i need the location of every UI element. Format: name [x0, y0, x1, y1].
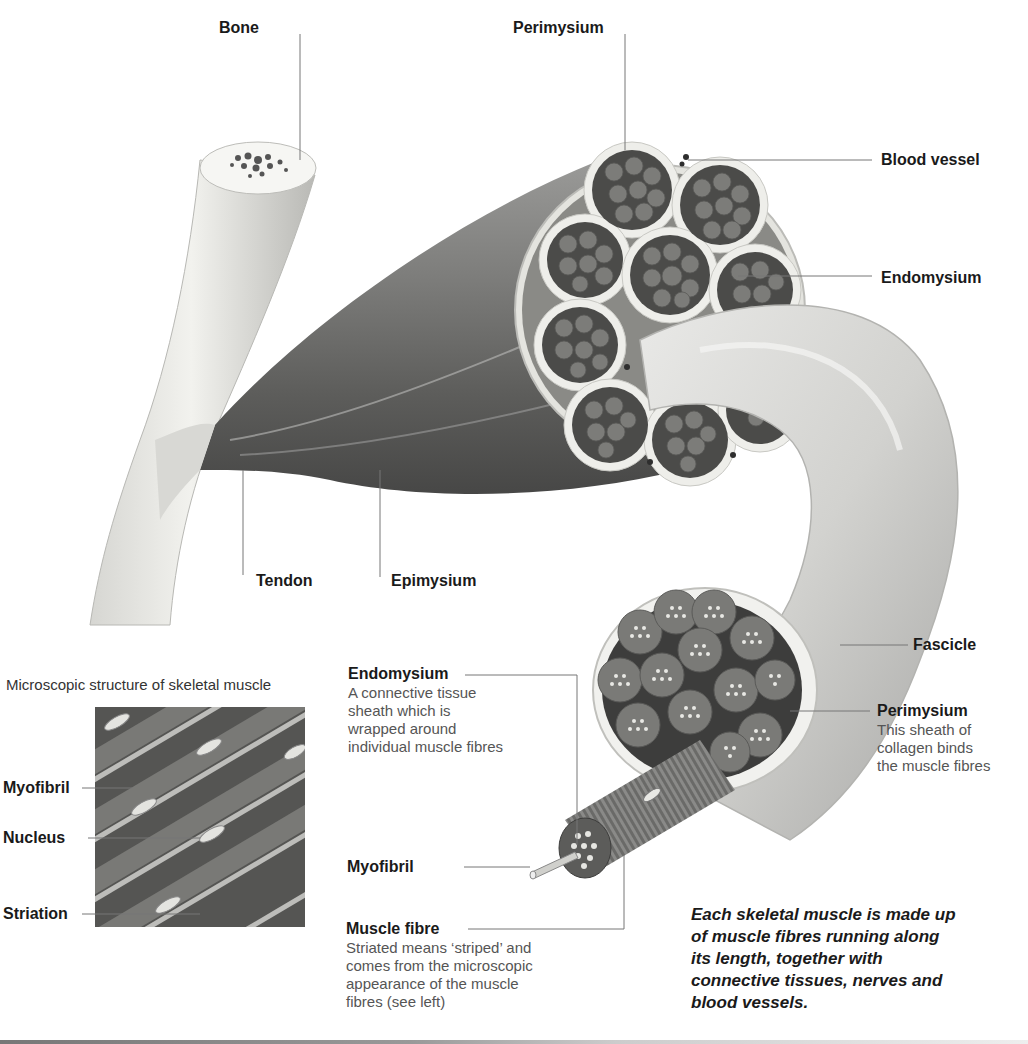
label-inset-nucleus: Nucleus — [3, 828, 65, 847]
label-fascicle: Fascicle — [913, 635, 976, 654]
label-tendon: Tendon — [256, 571, 313, 590]
label-inset-striation: Striation — [3, 904, 68, 923]
label-myofibril-detail: Myofibril — [347, 857, 414, 876]
label-epimysium: Epimysium — [391, 571, 476, 590]
muscle-fibre-description: Striated means ‘striped’ and comes from … — [346, 939, 533, 1011]
muscle-illustration — [0, 0, 1028, 1044]
endomysium-description: A connective tissue sheath which is wrap… — [348, 684, 503, 756]
label-endomysium-detail: Endomysium — [348, 664, 448, 683]
label-endomysium-right: Endomysium — [881, 268, 981, 287]
label-muscle-fibre: Muscle fibre — [346, 919, 439, 938]
summary-text: Each skeletal muscle is made up of muscl… — [691, 904, 1028, 1014]
label-inset-myofibril: Myofibril — [3, 778, 70, 797]
label-perimysium-detail: Perimysium — [877, 701, 968, 720]
bottom-divider — [0, 1040, 1028, 1044]
microscopic-inset — [60, 610, 330, 1040]
microscopic-inset-title: Microscopic structure of skeletal muscle — [6, 676, 271, 693]
label-bone: Bone — [219, 18, 259, 37]
perimysium-description: This sheath of collagen binds the muscle… — [877, 721, 990, 775]
label-perimysium-top: Perimysium — [513, 18, 604, 37]
label-blood-vessel: Blood vessel — [881, 150, 980, 169]
